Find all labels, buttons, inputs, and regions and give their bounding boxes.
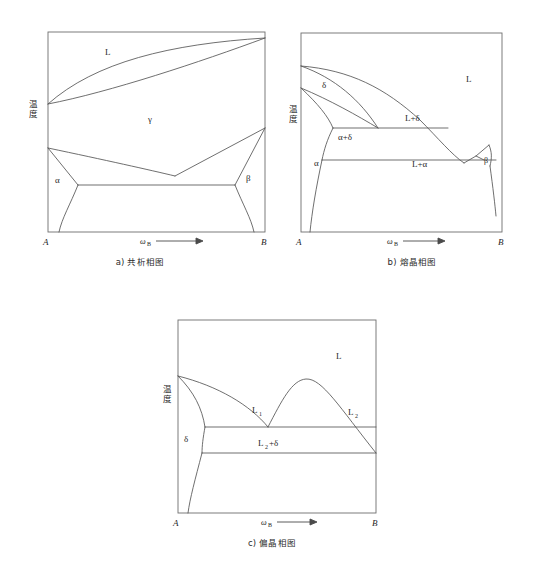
beta-boundary-b	[489, 145, 491, 166]
phase-label-L1-sub-c: 1	[259, 411, 262, 417]
phase-label-beta-a: β	[246, 173, 251, 183]
phase-label-L-a: L	[105, 47, 111, 57]
phase-label-alpha-b: α	[314, 158, 319, 168]
eutectoid-diagram-svg: L γ α β A B ω B	[0, 0, 280, 250]
x-axis-label-sub-a: B	[147, 241, 151, 247]
alpha-solvus-lower-b	[310, 160, 322, 232]
caption-c: c) 偏晶相图	[140, 536, 404, 548]
corner-label-B-b: B	[498, 237, 504, 247]
figure-monotectic: 温度 L L 1 L 2 δ L 2 +δ A B ω B	[140, 300, 404, 540]
delta-right-boundary-b	[301, 88, 378, 128]
monotectic-diagram-svg: L L 1 L 2 δ L 2 +δ A B ω B	[140, 300, 404, 540]
corner-label-B-c: B	[372, 518, 378, 528]
figure-eutectoid: 温度 L γ α β A B ω B	[0, 0, 280, 250]
liquidus-L2-curve-c	[268, 379, 376, 453]
metatectic-diagram-svg: L δ L+δ α+δ α L+α β A B ω B	[280, 0, 544, 250]
delta-solvus-c	[202, 427, 205, 453]
delta-solvus-lower-c	[188, 453, 202, 513]
y-axis-label-c: 温度	[160, 385, 172, 404]
phase-label-L2-delta-suffix-c: +δ	[269, 438, 278, 448]
figure-metatectic: 温度 L δ L+δ α+δ α L+α β A	[280, 0, 544, 250]
phase-label-L-alpha-b: L+α	[412, 159, 428, 169]
corner-label-A-a: A	[42, 237, 49, 247]
phase-label-L1-c: L	[252, 405, 258, 415]
caption-a: a) 共析相图	[0, 255, 280, 267]
delta-solidus-b	[301, 66, 378, 128]
phase-label-L-b: L	[466, 74, 472, 84]
delta-solidus-c	[178, 376, 205, 427]
x-axis-label-sub-c: B	[268, 522, 272, 528]
right-arrow-icon-c	[277, 519, 317, 525]
x-axis-label-b: ω	[387, 237, 393, 246]
phase-label-L2-sub-c: 2	[355, 413, 358, 419]
beta-solvus-lower-b	[490, 166, 496, 216]
x-axis-label-c: ω	[261, 518, 267, 527]
phase-label-delta-c: δ	[184, 434, 188, 444]
phase-label-L2-c: L	[348, 407, 354, 417]
corner-label-A-b: A	[295, 237, 302, 247]
phase-label-alpha-delta-b: α+δ	[338, 132, 352, 142]
right-arrow-icon-a	[156, 238, 203, 244]
liquidus-L1-curve-c	[178, 376, 268, 427]
x-axis-label-sub-b: B	[394, 241, 398, 247]
phase-label-L2-delta-sub-c: 2	[265, 444, 268, 450]
plot-frame-c	[178, 320, 376, 513]
phase-label-beta-b: β	[484, 156, 488, 165]
solidus-curve-a	[48, 38, 265, 104]
alpha-upper-boundary-b	[301, 88, 333, 128]
corner-label-B-a: B	[261, 237, 267, 247]
eutectic-tie-b	[476, 156, 484, 160]
phase-label-delta-b: δ	[322, 80, 326, 90]
caption-b: b) 熔晶相图	[280, 255, 544, 267]
alpha-solvus-lower-a	[59, 185, 78, 232]
y-axis-label-a: 温度	[26, 100, 38, 119]
phase-label-L2-delta-c: L	[258, 438, 264, 448]
phase-label-gamma-a: γ	[147, 114, 152, 124]
y-axis-label-b: 温度	[286, 105, 298, 124]
phase-label-L-c: L	[336, 351, 342, 361]
phase-label-alpha-a: α	[55, 175, 60, 185]
corner-label-A-c: A	[172, 518, 179, 528]
phase-label-L-delta-b: L+δ	[405, 113, 420, 123]
liquidus-curve-a	[48, 38, 265, 104]
right-arrow-icon-b	[403, 238, 445, 244]
alpha-solvus-b	[322, 128, 333, 160]
gamma-right-boundary-a	[175, 128, 265, 176]
x-axis-label-a: ω	[140, 237, 146, 246]
plot-frame-a	[48, 32, 265, 232]
beta-solvus-lower-a	[235, 185, 254, 232]
